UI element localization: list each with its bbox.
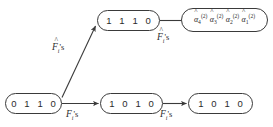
alpha-base: α^ — [226, 15, 230, 24]
alpha-superscript: (2) — [217, 13, 224, 19]
alpha-subscript: 4 — [198, 19, 201, 25]
alpha-term-list: α^4(2)α^3(2)α^2(2)α^1(2) — [193, 14, 257, 25]
alpha-term: α^4(2) — [194, 14, 208, 25]
f-tail: 's — [167, 109, 172, 119]
edge-diagonal-line — [62, 26, 96, 98]
node-1010-middle-label: 1 0 1 0 — [107, 99, 157, 109]
f-tail: 's — [73, 109, 78, 119]
alpha-hat-accent: ^ — [194, 8, 197, 15]
f-tail: 's — [164, 32, 169, 42]
alpha-hat-accent: ^ — [226, 8, 229, 15]
node-1010-right-label: 1 0 1 0 — [196, 99, 246, 109]
alpha-base: α^ — [242, 15, 246, 24]
node-1010-middle[interactable]: 1 0 1 0 — [100, 93, 163, 114]
alpha-superscript: (2) — [233, 13, 240, 19]
alpha-subscript: 2 — [230, 19, 233, 25]
edge-bottom-right-label: Fi's — [160, 110, 172, 121]
node-1110-label: 1 1 1 0 — [104, 16, 154, 26]
alpha-base: α^ — [210, 15, 214, 24]
f-hat-symbol: F^i's — [157, 33, 169, 44]
node-1110[interactable]: 1 1 1 0 — [97, 10, 160, 31]
alpha-subscript: 3 — [214, 19, 217, 25]
edge-top-right-label: F^i's — [157, 33, 169, 44]
alpha-term: α^2(2) — [226, 14, 240, 25]
f-hat-accent: ^ — [160, 27, 164, 35]
node-0110-label: 0 1 1 0 — [9, 99, 59, 109]
f-hat-accent: ^ — [55, 37, 59, 45]
f-tail: 's — [59, 42, 64, 52]
alpha-superscript: (2) — [249, 13, 256, 19]
alpha-base: α^ — [194, 15, 198, 24]
alpha-superscript: (2) — [201, 13, 208, 19]
alpha-term: α^3(2) — [210, 14, 224, 25]
diagram-canvas: 0 1 1 0 1 1 1 0 1 0 1 0 1 0 1 0 α^4(2)α^… — [0, 0, 273, 127]
node-0110[interactable]: 0 1 1 0 — [5, 93, 62, 114]
f-symbol: Fi's — [160, 110, 172, 121]
alpha-hat-accent: ^ — [210, 8, 213, 15]
alpha-term: α^1(2) — [242, 14, 256, 25]
edge-bottom-left-label: Fi's — [66, 110, 78, 121]
edge-diagonal-label: F^i's — [52, 43, 64, 54]
node-1010-right[interactable]: 1 0 1 0 — [188, 93, 253, 114]
node-alpha-estimates[interactable]: α^4(2)α^3(2)α^2(2)α^1(2) — [181, 8, 268, 32]
f-hat-symbol: F^i's — [52, 43, 64, 54]
alpha-hat-accent: ^ — [242, 8, 245, 15]
alpha-subscript: 1 — [246, 19, 249, 25]
f-symbol: Fi's — [66, 110, 78, 121]
